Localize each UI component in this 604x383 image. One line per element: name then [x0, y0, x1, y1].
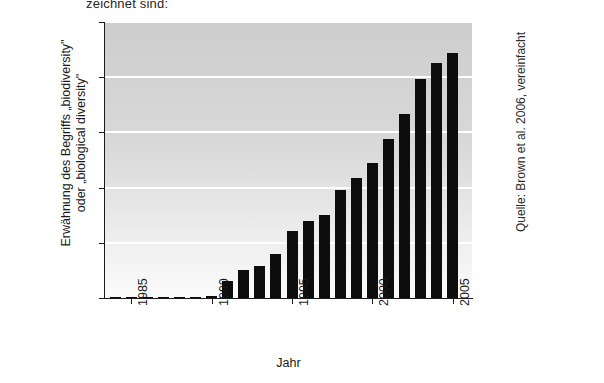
- x-tick-mark: [212, 299, 213, 304]
- y-tick-mark: [99, 243, 104, 244]
- x-tick-mark: [453, 299, 454, 304]
- y-axis-line: [104, 22, 105, 299]
- x-tick-label: 2005: [458, 278, 472, 306]
- bar: [399, 114, 410, 298]
- x-tick-mark: [131, 299, 132, 304]
- bar: [415, 79, 426, 298]
- y-tick-mark: [99, 22, 104, 23]
- y-tick-mark: [99, 298, 104, 299]
- source-note: Quelle: Brown et al. 2006, vereinfacht: [514, 2, 528, 232]
- bar: [287, 231, 298, 298]
- y-tick-mark: [99, 77, 104, 78]
- y-axis-title-line2: oder „biological diversity": [74, 74, 88, 213]
- bar: [335, 190, 346, 298]
- x-tick-mark: [292, 299, 293, 304]
- bar: [238, 270, 249, 298]
- bar: [351, 178, 362, 298]
- x-tick-label: 1995: [297, 278, 311, 306]
- y-axis-title: Erwähnung des Begriffs „biodiversity" od…: [59, 18, 89, 268]
- top-caption: zeichnet sind:: [86, 0, 168, 10]
- bar: [254, 266, 265, 298]
- plot-area: [104, 22, 472, 298]
- y-tick-mark: [99, 188, 104, 189]
- bar: [447, 53, 458, 298]
- bar: [383, 139, 394, 298]
- bar: [431, 63, 442, 298]
- x-axis-line: [104, 298, 473, 299]
- y-axis-title-line1: Erwähnung des Begriffs „biodiversity": [59, 39, 73, 246]
- bar: [319, 215, 330, 298]
- figure-root: zeichnet sind: Erwähnung des Begriffs „b…: [0, 0, 604, 383]
- x-axis-title: Jahr: [104, 356, 473, 370]
- gridline: [104, 21, 472, 23]
- x-tick-label: 2000: [377, 278, 391, 306]
- x-tick-label: 1990: [217, 278, 231, 306]
- x-tick-label: 1985: [136, 278, 150, 306]
- bar: [270, 254, 281, 298]
- y-tick-mark: [99, 132, 104, 133]
- x-tick-mark: [372, 299, 373, 304]
